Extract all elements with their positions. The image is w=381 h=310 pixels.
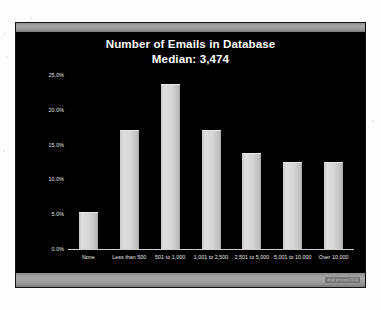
bar-slot — [272, 75, 313, 249]
bar-slot — [150, 75, 191, 249]
scan-artifact — [4, 33, 6, 35]
bar-slot — [191, 75, 232, 249]
bar-slot — [313, 75, 354, 249]
title-block: Number of Emails in Database Median: 3,4… — [16, 36, 365, 66]
bar-slot — [109, 75, 150, 249]
bar-501-to-1000 — [161, 84, 180, 249]
bar-over-10000 — [324, 162, 343, 249]
bar-less-than-500 — [120, 130, 139, 249]
y-tick-label: 0.0% — [52, 246, 64, 252]
scanned-page: Number of Emails in Database Median: 3,4… — [0, 0, 381, 310]
bar-none — [79, 212, 98, 249]
x-tick-label: 2,501 to 5,000 — [231, 253, 272, 261]
x-tick-label: Less than 500 — [109, 253, 150, 261]
y-tick-label: 5.0% — [52, 211, 64, 217]
bar-slot — [231, 75, 272, 249]
y-tick-label: 20.0% — [48, 107, 64, 113]
y-tick-label: 25.0% — [48, 72, 64, 78]
slide-top-band — [16, 23, 365, 32]
y-tick-label: 10.0% — [48, 176, 64, 182]
watermark-label: draft preview 2014 — [325, 277, 360, 283]
x-tick-label: 501 to 1,000 — [150, 253, 191, 261]
x-tick-label: None — [68, 253, 109, 261]
x-tick-label: 1,001 to 2,500 — [191, 253, 232, 261]
scan-artifact — [372, 120, 374, 122]
x-tick-label: Over 10,000 — [313, 253, 354, 261]
x-tick-label: 5,001 to 10,000 — [272, 253, 313, 261]
bar-2501-to-5000 — [242, 153, 261, 249]
slide-bottom-band: draft preview 2014 — [16, 273, 365, 287]
presentation-slide: Number of Emails in Database Median: 3,4… — [16, 23, 365, 287]
y-tick-label: 15.0% — [48, 142, 64, 148]
bar-5001-to-10000 — [283, 162, 302, 249]
scan-artifact — [3, 150, 5, 152]
x-axis-line — [68, 249, 354, 250]
bar-1001-to-2500 — [202, 130, 221, 249]
chart-subtitle-median: Median: 3,474 — [16, 51, 365, 66]
x-axis-labels: None Less than 500 501 to 1,000 1,001 to… — [68, 253, 354, 261]
chart-title: Number of Emails in Database — [16, 36, 365, 51]
scan-artifact — [6, 56, 8, 58]
bar-chart: 25.0% 20.0% 15.0% 10.0% 5.0% 0.0% — [40, 75, 358, 279]
plot-area — [68, 75, 354, 249]
y-axis: 25.0% 20.0% 15.0% 10.0% 5.0% 0.0% — [40, 75, 68, 249]
bar-slot — [68, 75, 109, 249]
bar-series — [68, 75, 354, 249]
scan-artifact — [30, 17, 32, 19]
